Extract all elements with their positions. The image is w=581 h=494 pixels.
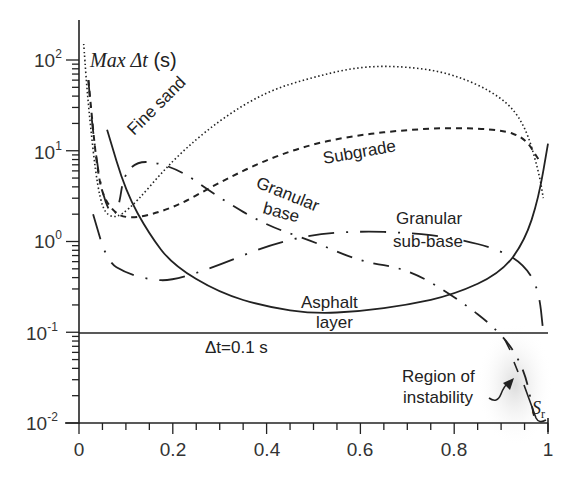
label-subgrade: Subgrade bbox=[321, 136, 397, 168]
y-tick-label-0.1: 10-1 bbox=[26, 320, 58, 344]
label-granular-subbase-1: Granular bbox=[396, 209, 462, 228]
label-region-1: Region of bbox=[402, 367, 475, 386]
x-tick-label-1: 1 bbox=[543, 439, 554, 460]
chart: 102 101 100 10-1 10-2 0 0.2 0.4 0.6 0.8 … bbox=[0, 0, 581, 494]
y-tick-labels: 102 101 100 10-1 10-2 bbox=[26, 47, 62, 434]
label-fine-sand: Fine sand bbox=[123, 73, 189, 139]
label-granular-subbase-2: sub-base bbox=[393, 232, 463, 251]
y-tick-label-0.01: 10-2 bbox=[26, 410, 58, 434]
label-region-2: instability bbox=[403, 388, 473, 407]
y-tick-label-100: 102 bbox=[34, 47, 62, 71]
x-tick-label-0.4: 0.4 bbox=[254, 439, 281, 460]
y-tick-label-1: 100 bbox=[34, 228, 62, 252]
x-tick-label-0.2: 0.2 bbox=[160, 439, 186, 460]
y-ticks bbox=[66, 60, 79, 423]
axes bbox=[65, 20, 548, 432]
x-tick-labels: 0 0.2 0.4 0.6 0.8 1 bbox=[74, 439, 554, 460]
instability-region-shade bbox=[477, 323, 553, 447]
y-axis-title: Max Δt (s) bbox=[89, 49, 177, 71]
y-tick-label-10: 101 bbox=[34, 139, 62, 163]
curve-granular-base bbox=[88, 80, 534, 416]
x-ticks bbox=[79, 423, 548, 434]
label-dt-line: Δt=0.1 s bbox=[205, 338, 268, 357]
label-asphalt-2: layer bbox=[316, 313, 353, 332]
x-tick-label-0.8: 0.8 bbox=[441, 439, 467, 460]
label-asphalt-1: Asphalt bbox=[301, 293, 358, 312]
x-tick-label-0.6: 0.6 bbox=[347, 439, 373, 460]
x-tick-label-0: 0 bbox=[74, 439, 85, 460]
